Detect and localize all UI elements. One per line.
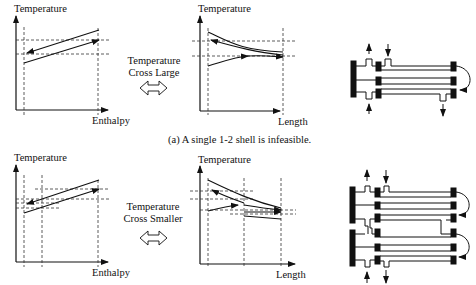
row-a-left-ylabel: Temperature xyxy=(14,4,67,15)
row-b-right-ylabel: Temperature xyxy=(198,155,251,166)
row-b-enthalpy-plot xyxy=(16,165,110,267)
row-a-exchanger xyxy=(351,44,470,116)
row-b-length-plot xyxy=(190,166,296,268)
row-a-right-xlabel: Length xyxy=(278,117,308,128)
row-a-left-xlabel: Enthalpy xyxy=(92,116,130,127)
double-headed-arrow-icon xyxy=(140,231,167,245)
row-b-left-ylabel: Temperature xyxy=(14,153,67,164)
row-a-caption: (a) A single 1-2 shell is infeasible. xyxy=(168,134,311,145)
row-a-annotation-line1: Temperature xyxy=(114,56,194,67)
row-a-annotation-line2: Cross Large xyxy=(114,68,194,79)
row-a-right-ylabel: Temperature xyxy=(198,4,251,15)
row-a-length-plot xyxy=(192,16,297,115)
row-b-annotation-line1: Temperature xyxy=(110,202,196,213)
double-headed-arrow-icon xyxy=(140,81,167,95)
row-b-annotation-line2: Cross Smaller xyxy=(110,214,196,225)
row-a-enthalpy-plot xyxy=(16,16,110,115)
row-b-left-xlabel: Enthalpy xyxy=(92,268,130,279)
row-b-right-xlabel: Length xyxy=(276,270,306,281)
row-b-exchanger xyxy=(350,170,469,283)
